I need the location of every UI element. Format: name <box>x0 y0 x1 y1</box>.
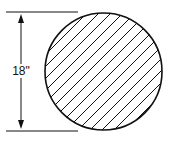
arrow-up-icon <box>18 14 24 23</box>
arrow-down-icon <box>18 120 24 129</box>
diameter-label: 18" <box>8 64 34 78</box>
circle-cross-section <box>45 13 162 130</box>
